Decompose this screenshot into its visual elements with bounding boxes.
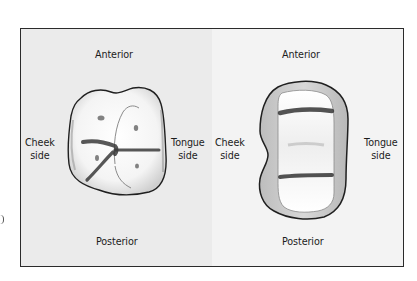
label-tongue-side-right: Tongue side [364, 136, 398, 162]
label-cheek-line2: side [25, 149, 55, 162]
label-posterior-left: Posterior [96, 235, 138, 248]
label-cheek-line1: Cheek [25, 137, 55, 148]
label-tongue-line1: Tongue [364, 137, 398, 148]
label-anterior-left: Anterior [95, 48, 133, 61]
panel-right: Anterior [212, 29, 403, 266]
label-anterior-right: Anterior [282, 48, 320, 61]
figure-frame: Anterior [20, 28, 404, 267]
molar-prepared-illustration-right [256, 79, 356, 221]
panel-left: Anterior [21, 29, 212, 266]
label-cheek-side-left: Cheek side [25, 136, 55, 162]
label-tongue-line2: side [364, 149, 398, 162]
label-tongue-side-left: Tongue side [171, 136, 205, 162]
label-tongue-line2: side [171, 149, 205, 162]
label-cheek-line2: side [215, 149, 245, 162]
label-cheek-side-right: Cheek side [215, 136, 245, 162]
label-cheek-line1: Cheek [215, 137, 245, 148]
label-posterior-right: Posterior [282, 235, 324, 248]
label-tongue-line1: Tongue [171, 137, 205, 148]
edge-artifact [0, 215, 4, 224]
molar-occlusal-illustration-left [67, 86, 171, 198]
